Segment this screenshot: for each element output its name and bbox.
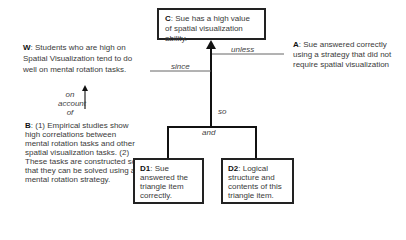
unless-label: unless — [231, 45, 254, 54]
warrant-text: W: Students who are high on Spatial Visu… — [23, 42, 143, 75]
so-label: so — [218, 107, 226, 116]
alternative-body: : Sue answered correctly using a strateg… — [293, 40, 391, 69]
warrant-body: : Students who are high on Spatial Visua… — [23, 43, 132, 74]
and-label: and — [202, 128, 215, 137]
backing-body: : (1) Empirical studies show high correl… — [25, 121, 136, 184]
warrant-label: W — [23, 43, 31, 52]
on-account-of-label: on account of — [58, 90, 82, 117]
data2-label: D2 — [228, 164, 238, 173]
data2-box: D2: Logical structure and contents of th… — [221, 158, 294, 204]
alternative-text: A: Sue answered correctly using a strate… — [293, 40, 393, 70]
data1-box: D1: Sue answered the triangle item corre… — [133, 158, 204, 204]
since-label: since — [171, 62, 190, 71]
data1-label: D1 — [140, 164, 150, 173]
backing-text: B: (1) Empirical studies show high corre… — [25, 121, 137, 184]
